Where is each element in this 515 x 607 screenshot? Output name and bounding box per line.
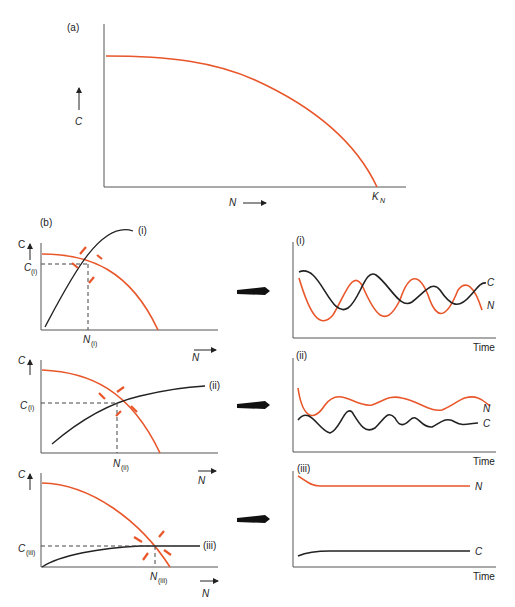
c-star-sub: (iii) (26, 549, 35, 557)
n-series-label: N (487, 300, 495, 311)
phase-plot-iii: C (iii) C (iii) N (iii) N (18, 469, 218, 599)
c-star-sub: (i) (31, 268, 37, 276)
figure: (a) C N K N (b) C (i) C (i) N (i) N (0, 0, 515, 607)
prey-isocline (42, 370, 160, 453)
c-star-sub: (i) (28, 404, 34, 412)
time-label: Time (473, 456, 495, 467)
time-label: Time (473, 342, 495, 353)
y-axis-label: C (18, 355, 26, 366)
panel-b-label: (b) (40, 217, 52, 228)
timeseries-iii: (iii) N C Time (293, 463, 496, 582)
c-series-label: C (487, 277, 495, 288)
panel-a-y-label: C (75, 116, 83, 127)
panel-a-x-label: N (229, 197, 237, 208)
x-axis-label: N (202, 588, 210, 599)
big-arrow-icon (237, 515, 270, 523)
big-arrow-icon (237, 287, 270, 295)
panel-a-label: (a) (67, 22, 79, 33)
vector-arrows (99, 387, 137, 416)
prey-isocline (42, 254, 158, 330)
predator-isocline-ii (52, 386, 205, 444)
curve-label-iii: (iii) (203, 540, 216, 551)
y-axis-label: C (18, 469, 26, 480)
big-arrow-icon (237, 401, 270, 409)
phase-plot-i: C (i) C (i) N (i) N (18, 225, 218, 363)
n-star-label: N (113, 458, 121, 469)
prey-isocline (42, 483, 170, 567)
predator-isocline-iii (42, 546, 200, 567)
c-series (298, 411, 478, 433)
n-series (299, 278, 482, 321)
timeseries-ii: (ii) N C Time (293, 350, 496, 467)
c-star-label: C (20, 400, 28, 411)
time-label: Time (473, 571, 495, 582)
y-axis-label: C (18, 239, 25, 250)
n-star-sub: (ii) (121, 464, 129, 472)
timeseries-i: (i) C N Time (293, 235, 496, 353)
n-star-label: N (150, 571, 158, 582)
phase-plot-ii: C (ii) C (i) N (ii) N (18, 355, 220, 486)
n-series-label: N (475, 481, 483, 492)
timeseries-label: (iii) (297, 463, 310, 474)
n-star-sub: (iii) (158, 577, 167, 585)
timeseries-label: (i) (296, 235, 305, 246)
panel-a: (a) C N K N (67, 22, 406, 208)
c-series-label: C (483, 418, 491, 429)
n-star-sub: (i) (91, 340, 97, 348)
c-series-label: C (475, 546, 483, 557)
x-axis-label: N (198, 475, 206, 486)
n-star-label: N (83, 334, 91, 345)
curve-label-ii: (ii) (209, 380, 220, 391)
n-series (298, 388, 490, 416)
carrying-capacity-subscript: N (380, 197, 386, 204)
carrying-capacity-label: K (372, 191, 380, 202)
n-series (298, 476, 470, 486)
panel-a-isocline-curve (106, 56, 377, 187)
c-series (298, 551, 470, 556)
c-star-label: C (18, 543, 26, 554)
curve-label-i: (i) (138, 225, 147, 236)
x-axis-label: N (192, 352, 200, 363)
n-series-label: N (483, 403, 491, 414)
timeseries-label: (ii) (296, 350, 307, 361)
